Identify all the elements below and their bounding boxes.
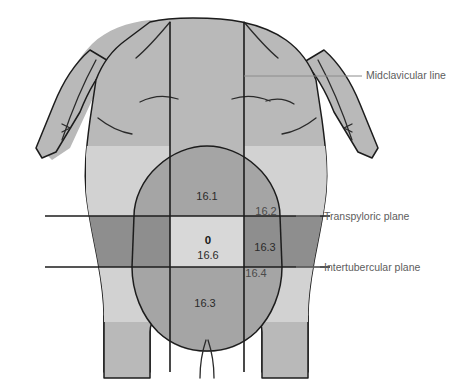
callout-intertubercular-plane: Intertubercular plane	[324, 261, 420, 273]
callout-midclavicular-line: Midclavicular line	[366, 69, 446, 81]
anatomy-diagram-svg: Midclavicular line Transpyloric plane In…	[0, 0, 451, 392]
region-label-epigastric: 16.1	[196, 190, 217, 202]
region-label-umbilical-marker: 0	[205, 234, 211, 246]
region-label-hypogastric: 16.3	[194, 297, 215, 309]
region-label-right-lumbar: 16.3	[254, 241, 275, 253]
region-label-right-hypochondriac: 16.2	[255, 205, 276, 217]
abdominal-regions-figure: Midclavicular line Transpyloric plane In…	[0, 0, 451, 392]
region-label-right-inguinal: 16.4	[245, 267, 266, 279]
region-label-umbilical: 16.6	[197, 249, 218, 261]
callout-transpyloric-plane: Transpyloric plane	[324, 210, 410, 222]
